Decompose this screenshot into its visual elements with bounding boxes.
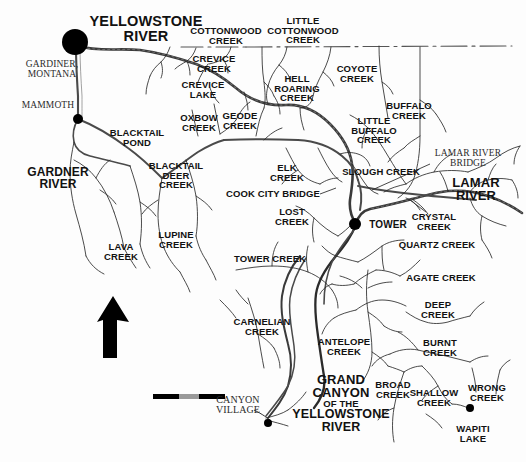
gardiner-dot	[62, 29, 88, 55]
yellowstone-river-map: YELLOWSTONE RIVERGARDINER, MONTANAMAMMOT…	[0, 0, 526, 462]
scale-bar-segment-3	[199, 394, 225, 399]
wapiti-lake-dot	[466, 404, 474, 412]
scale-bar	[153, 394, 225, 399]
map-vector-layer	[0, 0, 526, 462]
scale-bar-segment-2	[179, 394, 199, 399]
mammoth-dot	[73, 114, 83, 124]
road-gardiner-mammoth	[76, 48, 78, 119]
north-arrow-icon	[96, 296, 130, 358]
canyon-village-dot	[264, 419, 272, 427]
tower-dot	[349, 218, 361, 230]
scale-bar-segment-1	[153, 394, 179, 399]
